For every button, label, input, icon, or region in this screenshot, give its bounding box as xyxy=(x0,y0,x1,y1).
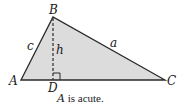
altitude-label-h: h xyxy=(56,43,64,57)
caption: A is acute. xyxy=(56,92,104,105)
caption-variable: A xyxy=(56,92,65,105)
caption-text: is acute. xyxy=(65,92,104,104)
vertex-label-b: B xyxy=(48,3,58,17)
side-label-a: a xyxy=(110,36,117,50)
side-label-c: c xyxy=(27,39,34,53)
vertex-label-a: A xyxy=(8,74,18,88)
triangle-diagram: B A C D c a h A is acute. xyxy=(0,0,185,105)
triangle-abc xyxy=(21,17,165,80)
vertex-label-c: C xyxy=(167,74,176,88)
